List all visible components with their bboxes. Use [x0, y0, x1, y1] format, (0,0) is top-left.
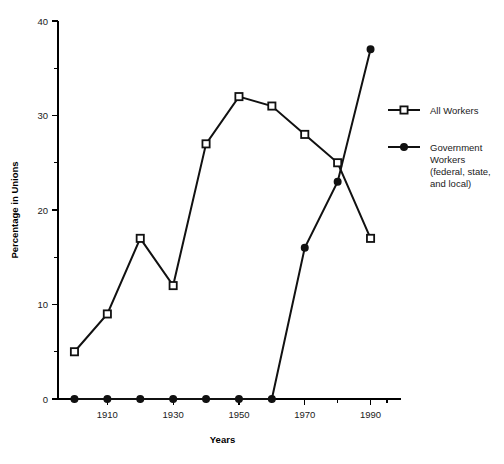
data-point-1 — [137, 235, 144, 242]
data-point-1 — [235, 93, 242, 100]
data-point-1 — [71, 348, 78, 355]
series-line-1 — [74, 97, 370, 352]
data-point-2 — [137, 396, 144, 403]
y-tick-label: 0 — [43, 394, 48, 405]
legend-marker-1 — [400, 106, 407, 113]
data-point-2 — [334, 178, 341, 185]
y-tick-label: 30 — [37, 110, 48, 121]
data-point-2 — [367, 46, 374, 53]
data-point-1 — [334, 159, 341, 166]
data-point-2 — [170, 396, 177, 403]
x-tick-label: 1990 — [360, 409, 381, 420]
legend-label-2: Workers — [430, 154, 465, 165]
chart-canvas: 01020304019101930195019701990YearsPercen… — [0, 0, 504, 464]
y-tick-label: 40 — [37, 16, 48, 27]
data-point-2 — [301, 245, 308, 252]
legend-label-2: (federal, state, — [430, 166, 491, 177]
data-point-1 — [367, 235, 374, 242]
data-point-2 — [203, 396, 210, 403]
legend-label-2: Government — [430, 142, 483, 153]
data-point-1 — [301, 131, 308, 138]
legend-label-2: and local) — [430, 178, 471, 189]
union-membership-line-chart: 01020304019101930195019701990YearsPercen… — [0, 0, 504, 464]
y-tick-label: 20 — [37, 205, 48, 216]
x-tick-label: 1930 — [163, 409, 184, 420]
data-point-2 — [71, 396, 78, 403]
legend-label-1: All Workers — [430, 105, 479, 116]
y-tick-label: 10 — [37, 299, 48, 310]
data-point-2 — [269, 396, 276, 403]
data-point-2 — [236, 396, 243, 403]
data-point-1 — [268, 102, 275, 109]
legend-marker-2 — [401, 144, 408, 151]
x-tick-label: 1910 — [97, 409, 118, 420]
x-tick-label: 1970 — [294, 409, 315, 420]
data-point-1 — [170, 282, 177, 289]
data-point-2 — [104, 396, 111, 403]
series-line-2 — [74, 49, 370, 399]
y-axis-title: Percentage in Unions — [9, 161, 20, 258]
x-axis-title: Years — [210, 434, 235, 445]
x-tick-label: 1950 — [228, 409, 249, 420]
data-point-1 — [202, 140, 209, 147]
data-point-1 — [104, 310, 111, 317]
